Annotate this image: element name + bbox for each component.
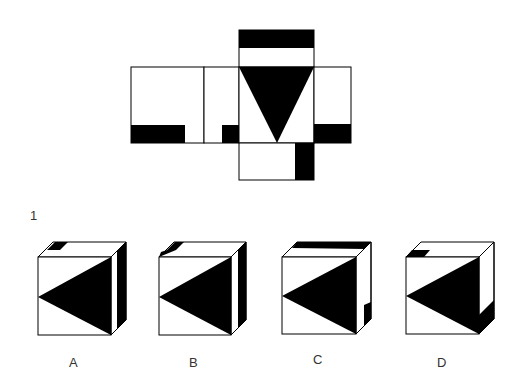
question-number: 1: [30, 208, 37, 223]
puzzle-figure: [0, 0, 522, 385]
option-a-cube[interactable]: [38, 242, 126, 335]
option-d-label[interactable]: D: [437, 355, 446, 370]
cube-net: [131, 30, 351, 180]
option-a-label[interactable]: A: [69, 355, 78, 370]
option-c-cube[interactable]: [282, 242, 371, 334]
option-b-label[interactable]: B: [189, 355, 198, 370]
net-top-band: [239, 30, 314, 48]
option-d-cube[interactable]: [406, 242, 494, 334]
option-c-label[interactable]: C: [313, 352, 322, 367]
option-b-cube[interactable]: [159, 242, 246, 335]
